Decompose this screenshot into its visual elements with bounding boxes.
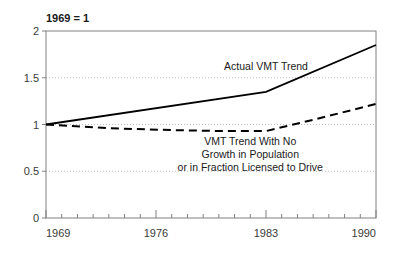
annotation-line: VMT Trend With No [204, 135, 296, 147]
y-tick-label-0.5: 0.5 [24, 165, 39, 177]
chart-background [0, 0, 402, 253]
x-tick-label-1990: 1990 [352, 227, 376, 239]
annotation-line: Actual VMT Trend [224, 60, 308, 72]
y-tick-label-2: 2 [33, 25, 39, 37]
x-tick-label-1976: 1976 [144, 227, 168, 239]
vmt-trend-chart: 00.511.52 1969197619831990 1969 = 1 Actu… [0, 0, 402, 253]
y-tick-label-0: 0 [33, 212, 39, 224]
x-tick-label-1983: 1983 [254, 227, 278, 239]
y-tick-label-1.5: 1.5 [24, 72, 39, 84]
annotation-line: or in Fraction Licensed to Drive [178, 161, 323, 173]
x-tick-label-1969: 1969 [46, 227, 70, 239]
annotation-line: Growth in Population [202, 148, 300, 160]
y-tick-label-1: 1 [33, 119, 39, 131]
chart-title: 1969 = 1 [46, 12, 89, 24]
annotation-actual-label: Actual VMT Trend [224, 60, 308, 72]
chart-svg: 00.511.52 1969197619831990 1969 = 1 Actu… [0, 0, 402, 253]
